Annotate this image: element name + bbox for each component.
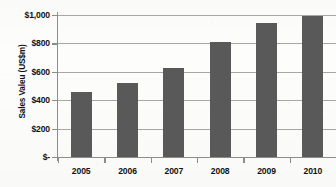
gridline (58, 100, 336, 101)
y-axis-tick-mark (52, 129, 58, 130)
x-axis-tick-label: 2010 (303, 166, 322, 176)
bar (210, 42, 231, 157)
y-axis-tick-label: $200 (4, 124, 50, 134)
x-axis-tick-label: 2006 (118, 166, 137, 176)
gridline (58, 43, 336, 44)
plot-area (58, 15, 336, 157)
x-axis-tick-label: 2009 (257, 166, 276, 176)
y-axis-tick-labels: $-$200$400$600$800$1,000 (0, 0, 50, 187)
bar (163, 68, 184, 157)
x-axis-tick-labels: 200520062007200820092010 (58, 166, 336, 182)
bar (71, 92, 92, 157)
x-axis-tick-mark (58, 158, 59, 163)
x-axis-line (55, 157, 336, 158)
gridline (58, 72, 336, 73)
x-axis-tick-label: 2008 (211, 166, 230, 176)
y-axis-tick-mark (52, 15, 58, 16)
bar (256, 23, 277, 157)
bar (117, 83, 138, 157)
y-axis-tick-mark (52, 43, 58, 44)
y-axis-tick-label: $- (4, 152, 50, 162)
bar-chart: Sales Valeu (US$m) $-$200$400$600$800$1,… (0, 0, 336, 187)
x-axis-tick-mark (197, 158, 198, 163)
gridline (58, 15, 336, 16)
bar (302, 16, 323, 157)
y-axis-tick-mark (52, 100, 58, 101)
y-axis-tick-mark (52, 72, 58, 73)
x-axis-tick-label: 2007 (164, 166, 183, 176)
y-axis-tick-label: $1,000 (4, 10, 50, 20)
y-axis-tick-label: $800 (4, 38, 50, 48)
y-axis-tick-label: $600 (4, 67, 50, 77)
x-axis-tick-mark (104, 158, 105, 163)
y-axis-tick-label: $400 (4, 95, 50, 105)
x-axis-tick-mark (243, 158, 244, 163)
x-axis-tick-mark (290, 158, 291, 163)
x-axis-tick-mark (151, 158, 152, 163)
gridline (58, 129, 336, 130)
x-axis-tick-label: 2005 (72, 166, 91, 176)
